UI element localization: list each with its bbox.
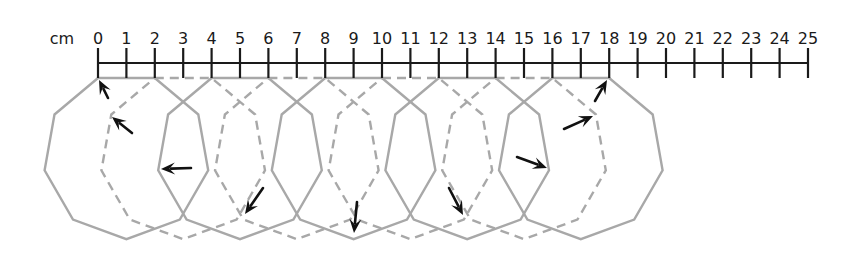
- ruler-tick-label: 10: [372, 29, 392, 48]
- ruler-tick-label: 6: [263, 29, 273, 48]
- arrow-icon: [349, 202, 361, 233]
- polygon-positions: [45, 78, 663, 239]
- arrow-icon: [112, 117, 132, 133]
- ruler-tick-label: 20: [656, 29, 676, 48]
- ruler-tick-label: 15: [514, 29, 534, 48]
- ruler-tick-label: 8: [320, 29, 330, 48]
- arrow-icon: [564, 116, 593, 129]
- ruler-tick-label: 19: [627, 29, 647, 48]
- ruler-tick-label: 9: [349, 29, 359, 48]
- ruler-tick-label: 16: [542, 29, 562, 48]
- ruler-tick-label: 4: [207, 29, 217, 48]
- ruler-tick-label: 14: [485, 29, 505, 48]
- ruler-tick-label: 13: [457, 29, 477, 48]
- ruler-tick-label: 23: [741, 29, 761, 48]
- ruler-tick-label: 18: [599, 29, 619, 48]
- ruler-tick-label: 22: [713, 29, 733, 48]
- arrow-icon: [517, 157, 547, 169]
- arrow-icon: [99, 80, 111, 98]
- ruler-tick-label: 2: [150, 29, 160, 48]
- ruler-tick-label: 11: [400, 29, 420, 48]
- ruler-tick-label: 5: [235, 29, 245, 48]
- arrow-icon: [245, 188, 263, 214]
- arrow-icon: [595, 80, 607, 101]
- ruler-tick-label: 21: [684, 29, 704, 48]
- arrow-icon: [161, 163, 191, 175]
- unit-label: cm: [50, 29, 74, 48]
- ruler-tick-label: 1: [121, 29, 131, 48]
- ruler-tick-label: 12: [429, 29, 449, 48]
- ruler-tick-label: 3: [178, 29, 188, 48]
- ruler: 0123456789101112131415161718192021222324…: [93, 29, 818, 78]
- ruler-tick-label: 25: [798, 29, 818, 48]
- ruler-tick-label: 17: [571, 29, 591, 48]
- ruler-tick-label: 24: [769, 29, 789, 48]
- ruler-tick-label: 7: [292, 29, 302, 48]
- ruler-tick-label: 0: [93, 29, 103, 48]
- rolling-polygon-diagram: cm 0123456789101112131415161718192021222…: [0, 0, 854, 253]
